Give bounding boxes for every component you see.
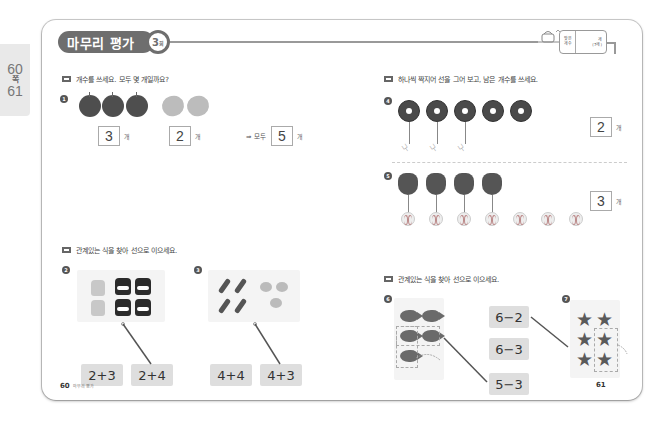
answer-total[interactable]: 5	[271, 126, 293, 146]
star-icon: ★	[576, 330, 593, 349]
jar-icon	[135, 299, 151, 316]
header-rule	[170, 41, 538, 43]
question-number: 3	[194, 266, 202, 274]
score-box: 맞은개수 개 (7개)	[559, 30, 607, 54]
total-label: ⇒ 모두	[246, 131, 266, 141]
fork-icon: ⑂	[399, 141, 412, 156]
glove-icon	[426, 173, 446, 195]
instruction-pairing: 하나씩 짝지어 선을 그어 보고, 남은 개수를 쓰세요.	[384, 74, 538, 84]
question-number: 1	[60, 95, 68, 103]
donut-icon	[426, 100, 448, 122]
fish-picture	[394, 298, 444, 380]
workbook-spread: 마무리 평가 3회 맞은개수 개 (7개) 개수를 쓰세요. 모두 몇 개일까요…	[42, 20, 642, 400]
question-number: 4	[384, 97, 392, 105]
divider	[392, 162, 627, 163]
jar-icon	[91, 280, 105, 296]
baseball-icon	[513, 212, 527, 226]
jar-icon	[115, 278, 131, 295]
candy-icon	[260, 282, 272, 292]
answer-remaining-donuts[interactable]: 2	[590, 117, 612, 137]
jar-icon	[91, 300, 105, 316]
donut-icon	[482, 100, 504, 122]
baseball-icon	[401, 212, 415, 226]
expression-option[interactable]: 4+3	[260, 364, 302, 386]
sausage-icon	[234, 298, 247, 314]
sausage-candy-picture	[208, 270, 300, 322]
fork-icon: ⑂	[455, 141, 468, 156]
question-number: 2	[62, 266, 70, 274]
candy-icon	[270, 298, 282, 308]
glove-icon	[482, 173, 502, 195]
instruction-match-left: 관계있는 식을 찾아 선으로 이으세요.	[62, 245, 177, 255]
jar-icon	[135, 278, 151, 295]
answer-remaining-balls[interactable]: 3	[590, 191, 612, 211]
question-number: 6	[384, 295, 392, 303]
glove-icon	[398, 173, 418, 195]
star-icon: ★	[596, 310, 613, 329]
baseball-icon	[485, 212, 499, 226]
answer-apples[interactable]: 3	[98, 126, 120, 146]
baseball-icon	[429, 212, 443, 226]
baseball-icon	[569, 212, 583, 226]
page-end: 61	[7, 84, 23, 98]
page-title: 마무리 평가	[58, 31, 154, 53]
fish-icon	[422, 310, 440, 322]
lemon-icon	[185, 93, 211, 118]
pencil-icon	[62, 75, 72, 83]
pencil-icon	[62, 246, 72, 254]
candy-icon	[276, 282, 288, 292]
page-range-tab: 60 쪽 · 61 쪽	[0, 44, 30, 116]
answer-lemons[interactable]: 2	[169, 126, 191, 146]
expression-option[interactable]: 2+4	[131, 364, 173, 386]
donut-icon	[510, 100, 532, 122]
apple-icon	[79, 95, 101, 117]
pencil-icon	[384, 275, 394, 283]
fish-icon	[400, 310, 418, 322]
question-number: 7	[562, 295, 570, 303]
baseball-icon	[541, 212, 555, 226]
jars-picture	[77, 270, 165, 322]
expression-option[interactable]: 6−2	[489, 306, 529, 328]
donut-icon	[398, 100, 420, 122]
apple-icon	[126, 95, 148, 117]
page-unit: 쪽	[12, 76, 19, 84]
connect-dot[interactable]	[253, 322, 257, 326]
connect-dot[interactable]	[121, 322, 125, 326]
sausage-icon	[234, 278, 247, 294]
question-number: 5	[384, 172, 392, 180]
expression-option[interactable]: 4+4	[210, 364, 252, 386]
expression-option[interactable]: 6−3	[489, 338, 529, 360]
page-footer-right: 61	[596, 381, 606, 389]
page-footer-left: 60 마무리 평가	[60, 382, 94, 390]
instruction-count: 개수를 쓰세요. 모두 몇 개일까요?	[62, 74, 169, 84]
stars-picture: ★ ★ ★ ★ ★ ★	[570, 300, 620, 378]
baseball-icon	[457, 212, 471, 226]
sausage-icon	[218, 278, 231, 294]
apple-icon	[102, 95, 124, 117]
pencil-icon	[384, 75, 394, 83]
glove-icon	[454, 173, 474, 195]
star-icon: ★	[576, 310, 593, 329]
expression-option[interactable]: 5−3	[489, 373, 529, 395]
fork-icon: ⑂	[427, 141, 440, 156]
star-icon: ★	[576, 350, 593, 369]
instruction-match-right: 관계있는 식을 찾아 선으로 이으세요.	[384, 274, 499, 284]
score-input[interactable]: 개 (7개)	[576, 31, 606, 53]
jar-icon	[115, 299, 131, 316]
lemon-icon	[160, 93, 186, 118]
donut-icon	[454, 100, 476, 122]
sausage-icon	[218, 298, 231, 314]
round-badge: 3회	[146, 30, 170, 54]
